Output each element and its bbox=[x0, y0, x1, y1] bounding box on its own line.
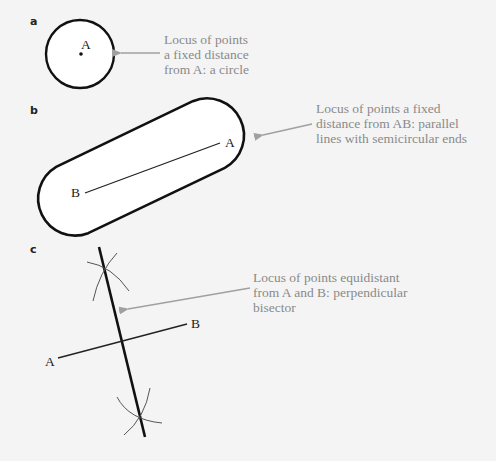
point-a-label: A bbox=[45, 354, 55, 369]
point-a-dot bbox=[79, 52, 83, 56]
panel-label-b: b bbox=[30, 104, 38, 117]
panel-c-figure: A B bbox=[45, 247, 250, 437]
locus-stadium bbox=[38, 98, 244, 235]
point-b-label: B bbox=[71, 185, 80, 200]
construction-arc bbox=[124, 388, 150, 435]
perpendicular-bisector bbox=[99, 247, 145, 437]
point-a-label: A bbox=[225, 135, 235, 150]
segment-ab bbox=[58, 324, 187, 358]
arrow-b bbox=[263, 124, 312, 135]
caption-a: Locus of points a fixed distance from A:… bbox=[164, 32, 249, 77]
caption-c: Locus of points equidistant from A and B… bbox=[253, 270, 407, 315]
panel-b-figure: A B bbox=[38, 98, 312, 235]
point-b-label: B bbox=[191, 316, 200, 331]
caption-b: Locus of points a fixed distance from AB… bbox=[316, 101, 467, 146]
panel-a-figure: A bbox=[46, 20, 160, 88]
panel-label-a: a bbox=[30, 15, 37, 28]
arrow-c bbox=[128, 288, 250, 309]
panel-label-c: c bbox=[30, 243, 37, 256]
point-a-label: A bbox=[81, 37, 91, 52]
